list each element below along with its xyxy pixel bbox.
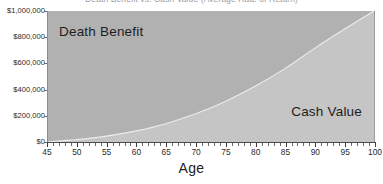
- x-tick-mark-minor: [363, 143, 364, 146]
- x-tick-mark-minor: [53, 143, 54, 146]
- x-tick-mark-minor: [244, 143, 245, 146]
- x-tick-mark-minor: [339, 143, 340, 146]
- x-tick-mark-minor: [119, 143, 120, 146]
- x-tick-mark-minor: [59, 143, 60, 146]
- x-tick-mark-minor: [113, 143, 114, 146]
- x-tick-mark-minor: [274, 143, 275, 146]
- x-tick-mark-minor: [214, 143, 215, 146]
- x-tick-label: 85: [271, 147, 301, 157]
- x-tick-mark-minor: [250, 143, 251, 146]
- x-tick-mark-minor: [351, 143, 352, 146]
- x-tick-label: 70: [181, 147, 211, 157]
- x-tick-mark-minor: [101, 143, 102, 146]
- x-tick-mark-minor: [160, 143, 161, 146]
- x-axis-title: Age: [0, 160, 383, 176]
- x-tick-mark-minor: [369, 143, 370, 146]
- x-tick-label: 65: [151, 147, 181, 157]
- x-tick-mark-minor: [268, 143, 269, 146]
- x-tick-label: 50: [62, 147, 92, 157]
- x-tick-mark-minor: [154, 143, 155, 146]
- x-tick-mark-minor: [303, 143, 304, 146]
- chart-container: Death Benefit vs. Cash Value (Average Ra…: [0, 0, 383, 184]
- x-tick-label: 60: [121, 147, 151, 157]
- x-tick-label: 75: [211, 147, 241, 157]
- x-tick-mark-minor: [292, 143, 293, 146]
- x-tick-mark-minor: [309, 143, 310, 146]
- x-tick-mark-minor: [71, 143, 72, 146]
- x-axis-ticks: 4550556065707580859095100: [0, 0, 383, 184]
- x-tick-mark-minor: [238, 143, 239, 146]
- x-tick-label: 55: [92, 147, 122, 157]
- x-tick-label: 100: [360, 147, 383, 157]
- x-tick-label: 95: [330, 147, 360, 157]
- x-tick-mark-minor: [202, 143, 203, 146]
- x-tick-mark-minor: [95, 143, 96, 146]
- x-tick-mark-minor: [65, 143, 66, 146]
- x-tick-mark-minor: [321, 143, 322, 146]
- x-tick-label: 45: [32, 147, 62, 157]
- x-tick-mark-minor: [130, 143, 131, 146]
- x-tick-mark-minor: [280, 143, 281, 146]
- x-tick-label: 90: [300, 147, 330, 157]
- x-tick-label: 80: [241, 147, 271, 157]
- x-tick-mark-minor: [190, 143, 191, 146]
- x-tick-mark-minor: [142, 143, 143, 146]
- x-tick-mark-minor: [220, 143, 221, 146]
- x-tick-mark-minor: [333, 143, 334, 146]
- x-tick-mark-minor: [148, 143, 149, 146]
- x-tick-mark-minor: [89, 143, 90, 146]
- x-tick-mark-minor: [232, 143, 233, 146]
- x-tick-mark-minor: [327, 143, 328, 146]
- x-tick-mark-minor: [178, 143, 179, 146]
- x-tick-mark-minor: [297, 143, 298, 146]
- x-tick-mark-minor: [262, 143, 263, 146]
- x-tick-mark-minor: [184, 143, 185, 146]
- x-tick-mark-minor: [125, 143, 126, 146]
- x-tick-mark-minor: [357, 143, 358, 146]
- x-tick-mark-minor: [208, 143, 209, 146]
- x-tick-mark-minor: [83, 143, 84, 146]
- x-tick-mark-minor: [172, 143, 173, 146]
